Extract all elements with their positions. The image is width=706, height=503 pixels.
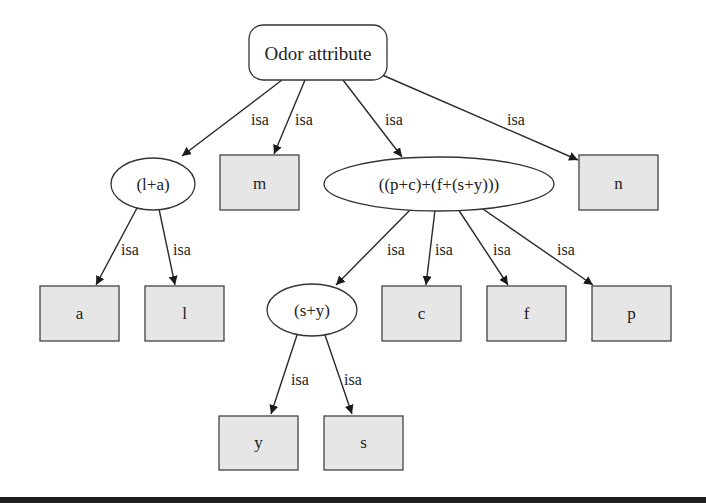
edge-label-la-a: isa (121, 241, 139, 258)
edge-label-pcfsy-sy: isa (387, 241, 405, 258)
node-m: m (220, 155, 299, 210)
sy-node-label: (s+y) (294, 301, 330, 320)
node-s: s (324, 416, 403, 470)
node-p: p (592, 286, 671, 341)
n-node-label: n (614, 174, 623, 193)
p-node-label: p (627, 304, 636, 323)
edge-root-to-n (380, 74, 578, 160)
node-sy: (s+y) (267, 284, 357, 336)
edge-label-sy-s: isa (344, 371, 362, 388)
node-c: c (382, 286, 461, 341)
edge-label-la-l: isa (173, 241, 191, 258)
a-node-label: a (76, 304, 84, 323)
node-f: f (487, 286, 566, 341)
node-la: (l+a) (111, 158, 195, 210)
node-pcfsy: ((p+c)+(f+(s+y))) (324, 157, 554, 211)
edge-pcfsy-to-c (426, 210, 435, 285)
la-node-label: (l+a) (136, 175, 169, 194)
edge-label-pcfsy-c: isa (435, 241, 453, 258)
bottom-border-bar (0, 497, 706, 503)
f-node-label: f (524, 304, 530, 323)
edge-label-root-pcfsy: isa (385, 111, 403, 128)
node-a: a (40, 286, 119, 341)
edge-label-root-m: isa (295, 111, 313, 128)
m-node-label: m (253, 174, 266, 193)
odor-attribute-diagram: isa isa isa isa isa isa isa isa isa isa … (0, 0, 706, 503)
node-n: n (579, 155, 658, 210)
root-node-label: Odor attribute (264, 43, 371, 64)
node-l: l (145, 286, 224, 341)
pcfsy-node-label: ((p+c)+(f+(s+y))) (379, 175, 499, 194)
node-y: y (219, 416, 298, 470)
edge-label-sy-y: isa (291, 371, 309, 388)
l-node-label: l (182, 304, 187, 323)
c-node-label: c (418, 304, 426, 323)
edge-label-root-n: isa (507, 111, 525, 128)
node-root: Odor attribute (249, 25, 387, 80)
y-node-label: y (254, 433, 263, 452)
edge-label-root-la: isa (251, 111, 269, 128)
edge-labels: isa isa isa isa isa isa isa isa isa isa … (121, 111, 575, 388)
edge-label-pcfsy-f: isa (493, 241, 511, 258)
edge-label-pcfsy-p: isa (557, 241, 575, 258)
s-node-label: s (360, 433, 367, 452)
